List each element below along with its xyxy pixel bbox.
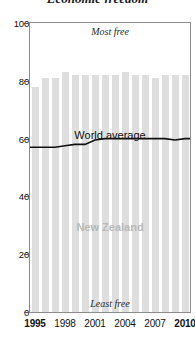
- annotation-most-free: Most free: [30, 26, 190, 37]
- x-axis-label: 2001: [84, 318, 105, 329]
- annotation-new-zealand: New Zealand: [30, 221, 190, 233]
- x-axis-label: 1995: [24, 318, 45, 329]
- chart-title-fragment: Economic freedom: [0, 0, 195, 3]
- economic-freedom-chart: Economic freedom 100806040200 Most free …: [0, 0, 195, 345]
- plot-area: Most free Least free World average New Z…: [29, 22, 191, 313]
- annotation-world-average: World average: [30, 129, 190, 141]
- x-axis-label: 1998: [54, 318, 75, 329]
- annotation-least-free: Least free: [30, 298, 190, 309]
- x-axis-label: 2004: [114, 318, 135, 329]
- world-average-line: [30, 23, 190, 312]
- x-axis-label: 2007: [144, 318, 165, 329]
- x-axis-label: 2010: [174, 318, 195, 329]
